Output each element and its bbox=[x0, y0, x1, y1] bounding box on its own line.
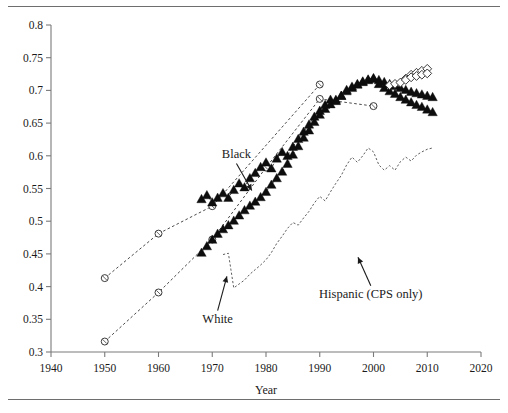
x-tick-label: 1950 bbox=[93, 362, 116, 374]
y-tick-label: 0.35 bbox=[23, 313, 43, 325]
x-tick-label: 1970 bbox=[201, 362, 224, 374]
series-annotation-label: White bbox=[202, 312, 233, 326]
x-tick-label: 2020 bbox=[470, 362, 493, 374]
figure-container: BlackWhiteHispanic (CPS only) 0.30.350.4… bbox=[0, 0, 508, 413]
x-tick-label: 2000 bbox=[362, 362, 385, 374]
y-tick-label: 0.7 bbox=[29, 84, 44, 96]
series-hispanic-cps-only bbox=[223, 148, 433, 288]
y-tick-label: 0.75 bbox=[23, 52, 43, 64]
series-black-census-decennial bbox=[101, 81, 323, 282]
series-line bbox=[105, 99, 374, 342]
marker-triangle bbox=[202, 190, 211, 198]
marker-triangle bbox=[283, 159, 292, 167]
y-tick-label: 0.6 bbox=[29, 150, 44, 162]
series-annotation-label: Black bbox=[222, 147, 252, 161]
annotations-group: BlackWhiteHispanic (CPS only) bbox=[202, 147, 422, 325]
x-tick-label: 1940 bbox=[40, 362, 63, 374]
series-group bbox=[101, 64, 437, 345]
x-tick-label: 1980 bbox=[255, 362, 278, 374]
y-tick-label: 0.65 bbox=[23, 117, 43, 129]
marker-triangle bbox=[277, 147, 286, 155]
y-tick-label: 0.3 bbox=[29, 346, 44, 358]
series-line bbox=[105, 85, 320, 279]
y-tick-label: 0.45 bbox=[23, 248, 43, 260]
x-tick-label: 1960 bbox=[147, 362, 170, 374]
series-black-acs bbox=[385, 69, 431, 90]
series-line bbox=[223, 148, 433, 288]
y-tick-label: 0.4 bbox=[29, 281, 44, 293]
x-tick-label: 1990 bbox=[308, 362, 331, 374]
series-white-census-decennial bbox=[101, 95, 377, 345]
y-tick-label: 0.8 bbox=[29, 19, 44, 31]
y-tick-label: 0.55 bbox=[23, 183, 43, 195]
series-annotation-label: Hispanic (CPS only) bbox=[319, 287, 422, 301]
marker-triangle bbox=[277, 167, 286, 175]
chart-svg: BlackWhiteHispanic (CPS only) 0.30.350.4… bbox=[0, 0, 508, 413]
marker-triangle bbox=[261, 158, 270, 166]
series-black-cps-annual bbox=[197, 74, 438, 206]
y-tick-label: 0.5 bbox=[29, 215, 44, 227]
annotation-arrow-head bbox=[223, 276, 229, 283]
x-tick-label: 2010 bbox=[416, 362, 439, 374]
x-axis-title: Year bbox=[255, 383, 277, 397]
